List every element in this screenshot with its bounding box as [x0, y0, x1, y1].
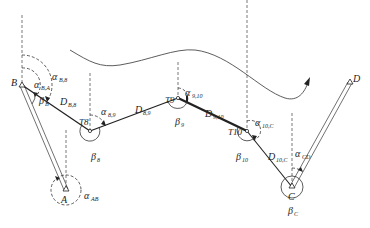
label-alpha-89: α 8,9 — [101, 106, 116, 118]
arrow-alpha-CD-icon — [298, 167, 303, 172]
svg-text:B,A: B,A — [41, 85, 50, 91]
label-beta-9: β 9 — [174, 116, 184, 128]
svg-text:10: 10 — [242, 157, 248, 163]
arc-beta-8 — [80, 125, 100, 141]
svg-text:α: α — [52, 71, 58, 82]
label-beta-10: β 10 — [235, 151, 248, 163]
curve-arrowhead-icon — [304, 77, 310, 86]
svg-text:8,9: 8,9 — [143, 110, 151, 116]
svg-text:D: D — [59, 96, 68, 107]
svg-text:α: α — [185, 87, 191, 98]
label-C: C — [288, 191, 295, 202]
svg-text:D: D — [204, 108, 213, 119]
svg-text:α: α — [84, 190, 90, 201]
label-alpha-910: α 9,10 — [185, 87, 203, 99]
svg-text:8: 8 — [97, 157, 100, 163]
svg-text:β: β — [235, 151, 241, 162]
svg-text:9,10: 9,10 — [213, 114, 224, 120]
svg-text:10,C: 10,C — [262, 123, 275, 129]
label-distance-910: D 9,10 — [204, 108, 224, 120]
known-line-CD — [290, 82, 352, 188]
label-alpha-10C: α 10,C — [255, 117, 275, 129]
svg-text:α: α — [101, 106, 107, 117]
svg-text:B,8: B,8 — [59, 77, 67, 83]
label-distance-89: D 8,9 — [134, 104, 151, 116]
point-T9-marker-icon — [176, 96, 179, 99]
svg-text:B,8: B,8 — [68, 102, 76, 108]
svg-text:D: D — [267, 151, 276, 162]
svg-text:10,C: 10,C — [276, 157, 289, 163]
label-alpha-CD: α CD — [295, 148, 311, 160]
svg-text:α: α — [295, 148, 301, 159]
label-distance-10C: D 10,C — [267, 151, 289, 163]
label-A: A — [60, 194, 68, 205]
label-T8: T8 — [79, 117, 89, 127]
label-beta-8: β 8 — [90, 151, 100, 163]
arrow-alpha-AB-icon — [55, 176, 60, 181]
svg-text:α: α — [34, 79, 40, 90]
svg-text:C: C — [294, 211, 299, 217]
label-alpha-BB8: α B,8 — [52, 71, 67, 83]
label-distance-B8: D B,8 — [59, 96, 76, 108]
svg-text:9,10: 9,10 — [192, 93, 203, 99]
svg-text:α: α — [255, 117, 261, 128]
label-alpha-BA: α B,A — [34, 79, 50, 91]
svg-text:β: β — [38, 95, 44, 106]
label-beta-B: β B — [38, 95, 49, 107]
label-beta-C: β C — [287, 205, 299, 217]
label-B: B — [11, 77, 17, 88]
svg-text:β: β — [90, 151, 96, 162]
label-D: D — [352, 73, 361, 84]
svg-text:β: β — [174, 116, 180, 127]
svg-text:AB: AB — [90, 196, 99, 202]
svg-text:B: B — [45, 101, 49, 107]
svg-text:β: β — [287, 205, 293, 216]
label-T9: T9 — [165, 95, 175, 105]
svg-text:CD: CD — [302, 154, 311, 160]
label-T10: T10 — [228, 127, 243, 137]
point-T8-marker-icon — [88, 129, 91, 132]
svg-text:D: D — [134, 104, 143, 115]
point-B-marker-icon — [19, 82, 25, 87]
point-T10-marker-icon — [245, 129, 248, 132]
traverse-diagram: B A T8 T9 T10 C D α B,8 α B,A α 8,9 α 9,… — [0, 0, 370, 228]
svg-text:9: 9 — [181, 122, 184, 128]
label-alpha-AB: α AB — [84, 190, 99, 202]
svg-text:8,9: 8,9 — [108, 112, 116, 118]
arrow-alpha-89-icon — [101, 120, 106, 126]
